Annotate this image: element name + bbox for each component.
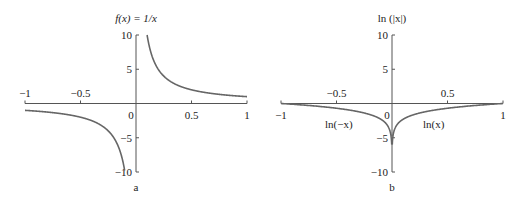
panel-a-series-line-1 <box>147 35 247 97</box>
panel-b-y-tick-label: 5 <box>383 63 389 75</box>
panel-a-panel-label: a <box>134 181 139 193</box>
panel-a-y-tick-label: 5 <box>127 63 133 75</box>
panel-b-annotation: ln(x) <box>423 118 445 131</box>
panel-b-x-tick-label: −0.5 <box>327 87 347 99</box>
panel-a-y-tick-label: 10 <box>121 29 133 41</box>
panel-a-x-tick-label: 0.5 <box>185 109 199 121</box>
panel-a-x-tick-label: −1 <box>19 87 31 99</box>
panel-b-annotation: ln(−x) <box>325 118 353 131</box>
panel-b-x-tick-label: −1 <box>275 109 287 121</box>
panel-a-series-line-0 <box>25 110 125 170</box>
chart-figure: f(x) = 1/x−1−0.500.51105−5−10aln (|x|)−1… <box>0 0 512 207</box>
panel-a-x-tick-label: 0 <box>128 109 134 121</box>
panel-a-x-tick-label: −0.5 <box>71 87 91 99</box>
panel-b-y-tick-label: −10 <box>371 166 389 178</box>
panel-b-panel-label: b <box>389 181 395 193</box>
panel-b-chart-title: ln (|x|) <box>378 12 407 25</box>
panel-a-chart-title: f(x) = 1/x <box>115 12 157 25</box>
panel-b-y-tick-label: 10 <box>377 29 389 41</box>
panel-b-x-tick-label: 1 <box>500 109 506 121</box>
panel-a-x-tick-label: 1 <box>244 109 250 121</box>
panel-a-y-tick-label: −5 <box>120 132 132 144</box>
panel-b-y-tick-label: −5 <box>376 132 388 144</box>
panel-b-x-tick-label: 0.5 <box>441 87 455 99</box>
panel-b-series-line-1 <box>392 104 503 145</box>
panel-b-x-tick-label: 0 <box>384 109 390 121</box>
